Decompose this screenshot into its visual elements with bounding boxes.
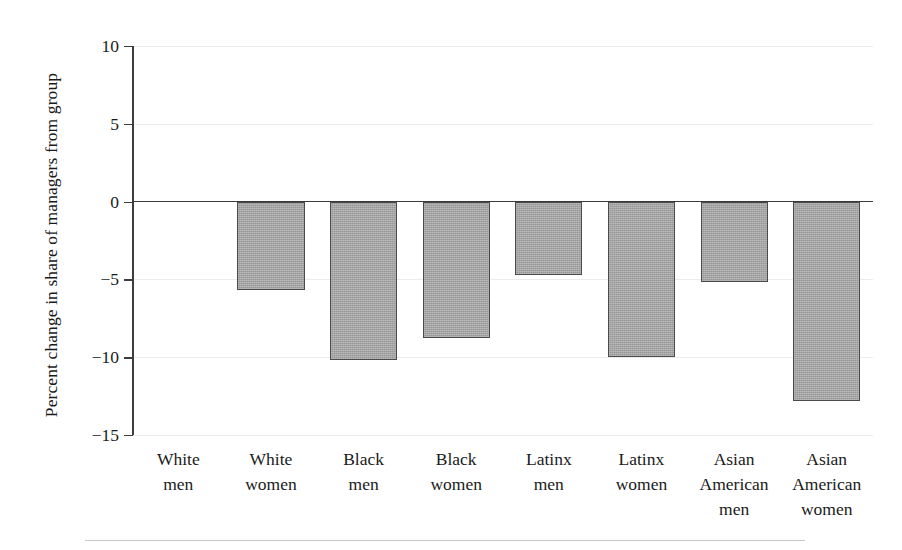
gridline bbox=[132, 46, 873, 47]
bar bbox=[330, 202, 397, 361]
y-axis-tick-label: 5 bbox=[110, 113, 119, 134]
x-axis-tick-label: Whitemen bbox=[132, 447, 225, 497]
y-axis-title: Percent change in share of managers from… bbox=[34, 30, 68, 460]
y-axis-tick-mark bbox=[124, 124, 133, 125]
x-axis-tick-label-line: Asian bbox=[780, 447, 873, 472]
y-axis-spine bbox=[132, 46, 134, 435]
x-axis-tick-label-line: Latinx bbox=[595, 447, 688, 472]
x-axis-tick-label-line: American bbox=[780, 472, 873, 497]
bar bbox=[608, 202, 675, 358]
x-axis-tick-label: Blackwomen bbox=[410, 447, 503, 497]
y-axis-tick-label: −5 bbox=[100, 269, 119, 290]
x-axis-tick-label-line: men bbox=[317, 472, 410, 497]
x-axis-tick-label-line: Black bbox=[317, 447, 410, 472]
gridline bbox=[132, 357, 873, 358]
x-axis-tick-label: Latinxmen bbox=[503, 447, 596, 497]
x-axis-tick-label-line: men bbox=[132, 472, 225, 497]
x-axis-tick-label-line: women bbox=[780, 497, 873, 522]
y-axis-tick-mark bbox=[124, 46, 133, 47]
x-axis-tick-label-line: Latinx bbox=[503, 447, 596, 472]
bar-chart-figure: Percent change in share of managers from… bbox=[0, 0, 902, 550]
x-axis-tick-label-line: White bbox=[132, 447, 225, 472]
x-axis-tick-label-line: Black bbox=[410, 447, 503, 472]
gridline bbox=[132, 435, 873, 436]
x-axis-tick-labels-group: WhitemenWhitewomenBlackmenBlackwomenLati… bbox=[132, 447, 873, 527]
x-axis-tick-label: Latinxwomen bbox=[595, 447, 688, 497]
x-axis-tick-label-line: women bbox=[595, 472, 688, 497]
y-axis-tick-label: 0 bbox=[110, 191, 119, 212]
x-axis-tick-label-line: White bbox=[225, 447, 318, 472]
y-axis-tick-mark bbox=[124, 279, 133, 280]
x-axis-tick-label-line: women bbox=[225, 472, 318, 497]
y-axis-tick-mark bbox=[124, 357, 133, 358]
x-axis-tick-label: Whitewomen bbox=[225, 447, 318, 497]
bar bbox=[701, 202, 768, 283]
bar bbox=[793, 202, 860, 401]
plot-area: 1050−5−10−15 bbox=[132, 46, 873, 435]
x-axis-tick-label-line: Asian bbox=[688, 447, 781, 472]
zero-baseline bbox=[132, 201, 873, 203]
y-axis-tick-label: 10 bbox=[102, 36, 120, 57]
bar bbox=[237, 202, 304, 291]
x-axis-tick-label-line: American bbox=[688, 472, 781, 497]
x-axis-tick-label-line: women bbox=[410, 472, 503, 497]
bar bbox=[515, 202, 582, 275]
x-axis-tick-label: AsianAmericanwomen bbox=[780, 447, 873, 522]
x-axis-tick-label-line: men bbox=[503, 472, 596, 497]
y-axis-tick-mark bbox=[124, 435, 133, 436]
gridline bbox=[132, 124, 873, 125]
y-axis-tick-label: −10 bbox=[92, 347, 119, 368]
bar bbox=[423, 202, 490, 339]
y-axis-tick-label: −15 bbox=[92, 425, 119, 446]
x-axis-tick-label-line: men bbox=[688, 497, 781, 522]
x-axis-tick-label: AsianAmericanmen bbox=[688, 447, 781, 522]
bottom-rule bbox=[85, 540, 805, 541]
x-axis-tick-label: Blackmen bbox=[317, 447, 410, 497]
